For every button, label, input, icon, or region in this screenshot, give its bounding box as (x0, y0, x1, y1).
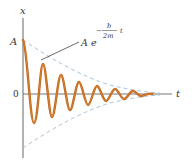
exponent-sign: − (96, 27, 102, 35)
damped-oscillation-diagram: x t A 0 A e − b 2m t (0, 0, 192, 165)
exponent-denominator: 2m (102, 32, 113, 40)
y-axis-label: x (20, 5, 26, 16)
exponent-numerator: b (107, 22, 111, 30)
lower-envelope (23, 95, 160, 148)
exponent-variable: t (120, 27, 123, 35)
envelope-formula-base: A e (80, 37, 97, 48)
origin-label: 0 (13, 89, 19, 99)
amplitude-label: A (9, 36, 17, 47)
t-axis-label: t (176, 88, 181, 99)
annotation-leader-line (41, 42, 79, 60)
